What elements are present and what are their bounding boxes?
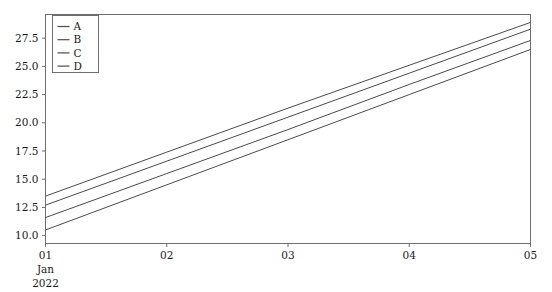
legend-label-a: A	[73, 20, 82, 32]
y-tick-label: 15.0	[15, 173, 38, 185]
legend-label-d: D	[74, 60, 82, 72]
plot-frame	[46, 15, 531, 244]
series-line-a	[46, 22, 531, 196]
y-tick-label: 22.5	[15, 88, 38, 100]
y-axis: 10.012.515.017.520.022.525.027.5	[15, 32, 45, 241]
series-line-b	[46, 29, 531, 205]
y-tick-label: 25.0	[15, 60, 38, 72]
x-axis-sublabel: Jan	[36, 263, 54, 275]
y-tick-label: 27.5	[15, 32, 38, 44]
x-tick-label: 04	[403, 249, 417, 261]
line-chart: 10.012.515.017.520.022.525.027.501020304…	[0, 0, 552, 292]
y-tick-label: 12.5	[15, 201, 38, 213]
legend-label-c: C	[74, 47, 82, 59]
legend: ABCD	[53, 16, 99, 73]
legend-label-b: B	[74, 33, 82, 45]
chart-canvas: 10.012.515.017.520.022.525.027.501020304…	[0, 0, 552, 292]
x-axis: 0102030405Jan2022	[32, 244, 537, 289]
x-tick-label: 05	[524, 249, 537, 261]
series-line-d	[46, 49, 531, 229]
series-line-c	[46, 40, 531, 217]
x-tick-label: 01	[39, 249, 52, 261]
x-tick-label: 03	[281, 249, 294, 261]
x-axis-sublabel: 2022	[32, 277, 59, 289]
y-tick-label: 17.5	[15, 145, 38, 157]
x-tick-label: 02	[160, 249, 173, 261]
series-group	[46, 22, 531, 230]
y-tick-label: 20.0	[15, 116, 38, 128]
y-tick-label: 10.0	[15, 229, 38, 241]
